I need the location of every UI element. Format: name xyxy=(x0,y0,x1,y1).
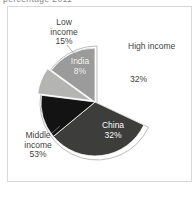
label-middle-income: Middle income 53% xyxy=(24,131,51,160)
label-india-pct: 8% xyxy=(71,67,89,77)
label-low-income: Low income 15% xyxy=(50,18,77,47)
pie-chart xyxy=(0,0,196,197)
label-china: China 32% xyxy=(102,121,124,140)
label-high-income-pct: 32% xyxy=(130,75,147,85)
label-low-income-line3: 15% xyxy=(50,37,77,47)
label-india: India 8% xyxy=(71,57,89,76)
label-china-pct: 32% xyxy=(102,131,124,141)
chart-panel-stage: percentage 2011 Low income 15% High inco… xyxy=(0,0,196,197)
label-middle-income-line3: 53% xyxy=(24,150,51,160)
label-high-income: High income xyxy=(128,42,175,52)
